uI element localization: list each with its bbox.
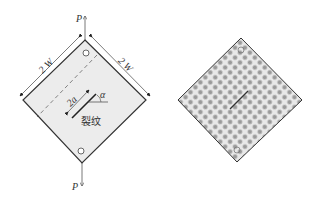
- diagram-canvas: P P 2 W 2 W 2a α 裂纹: [0, 0, 318, 199]
- crack-label: 裂纹: [81, 115, 101, 127]
- left-specimen: P P 2 W 2 W 2a α 裂纹: [20, 13, 150, 192]
- right-specimen-discretized: [178, 38, 302, 162]
- dimension-label-right: 2 W: [116, 55, 136, 75]
- pin-hole-top: [83, 50, 89, 56]
- load-label-bottom: P: [71, 181, 78, 192]
- angle-label: α: [100, 89, 106, 100]
- discretized-plate: [178, 38, 302, 162]
- pin-hole-bottom: [78, 148, 84, 154]
- load-label-top: P: [75, 13, 82, 24]
